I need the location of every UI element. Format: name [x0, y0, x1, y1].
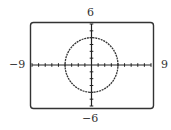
graph-screen — [0, 0, 171, 130]
axes — [32, 24, 151, 106]
